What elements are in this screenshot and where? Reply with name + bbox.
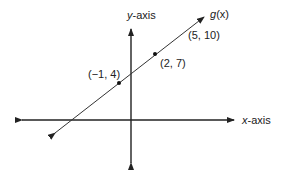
y-axis-suffix: -axis [133,9,156,21]
point-neg1-4 [117,81,121,85]
point-label-2-7: (2, 7) [160,58,186,69]
point-label-neg1-4: (−1, 4) [88,69,120,80]
point-label-5-10: (5, 10) [188,30,220,41]
function-line-g [55,17,204,133]
function-label: g(x) [210,9,229,20]
x-axis-suffix: -axis [248,114,271,126]
point-2-7 [153,52,157,56]
coordinate-plane [0,0,284,176]
x-axis-label: x-axis [242,115,271,126]
function-arg: (x) [216,8,229,20]
y-axis-label: y-axis [127,10,156,21]
